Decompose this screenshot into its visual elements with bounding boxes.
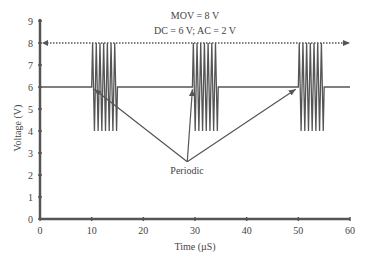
signal-line <box>40 43 350 131</box>
y-tick-label: 6 <box>28 82 33 93</box>
y-tick-label: 5 <box>28 104 33 115</box>
y-tick-label: 4 <box>28 126 33 137</box>
y-tick-label: 0 <box>28 214 33 225</box>
annotation-periodic: Periodic <box>170 165 204 176</box>
x-tick-label: 10 <box>87 225 97 236</box>
y-tick-label: 1 <box>28 192 33 203</box>
x-tick-label: 40 <box>242 225 252 236</box>
x-tick-label: 50 <box>293 225 303 236</box>
y-tick-label: 2 <box>28 170 33 181</box>
y-tick-label: 9 <box>28 16 33 27</box>
y-tick-label: 8 <box>28 38 33 49</box>
voltage-chart: 01020304050600123456789 MOV = 8 V DC = 6… <box>0 0 367 267</box>
periodic-arrow <box>94 89 187 162</box>
x-axis-label: Time (µS) <box>174 241 215 253</box>
annotation-mov: MOV = 8 V <box>171 10 220 21</box>
mov-arrow-left-icon <box>42 40 48 46</box>
x-tick-label: 30 <box>190 225 200 236</box>
x-tick-label: 60 <box>345 225 355 236</box>
plot-area <box>40 40 350 162</box>
y-tick-label: 3 <box>28 148 33 159</box>
y-axis-label: Voltage (V) <box>12 105 24 152</box>
periodic-arrow <box>187 89 192 162</box>
x-tick-label: 0 <box>38 225 43 236</box>
x-tick-label: 20 <box>138 225 148 236</box>
y-tick-label: 7 <box>28 60 33 71</box>
annotation-dc-ac: DC = 6 V; AC = 2 V <box>154 25 237 36</box>
